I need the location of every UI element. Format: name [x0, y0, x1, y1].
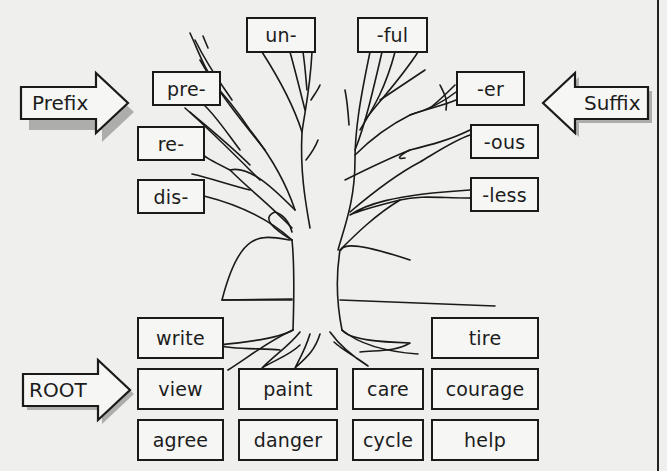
root-box-tire: tire	[431, 317, 539, 359]
suffix-box-er: -er	[456, 71, 525, 106]
suffix-arrow-label: Suffix	[584, 70, 641, 136]
root-box-write: write	[137, 317, 224, 359]
root-box-care: care	[352, 368, 424, 410]
root-arrow-label: ROOT	[29, 357, 87, 423]
root-box-paint: paint	[238, 368, 338, 410]
diagram-canvas: Prefix Suffix ROOT un- pre- re- dis- -fu…	[0, 0, 667, 471]
root-box-agree: agree	[137, 419, 224, 461]
page-border	[657, 0, 659, 471]
root-box-courage: courage	[431, 368, 539, 410]
suffix-box-ful: -ful	[357, 17, 428, 53]
suffix-arrow: Suffix	[540, 70, 652, 136]
root-box-cycle: cycle	[352, 419, 424, 461]
root-box-danger: danger	[238, 419, 338, 461]
prefix-box-re: re-	[137, 126, 205, 161]
suffix-box-less: -less	[470, 177, 539, 212]
prefix-arrow: Prefix	[18, 70, 136, 136]
prefix-box-pre: pre-	[152, 71, 221, 106]
prefix-box-dis: dis-	[137, 179, 205, 214]
root-box-help: help	[431, 419, 539, 461]
prefix-arrow-label: Prefix	[32, 70, 88, 136]
root-box-view: view	[137, 368, 224, 410]
suffix-box-ous: -ous	[470, 124, 539, 159]
prefix-box-un: un-	[246, 17, 316, 53]
root-arrow: ROOT	[20, 357, 138, 423]
